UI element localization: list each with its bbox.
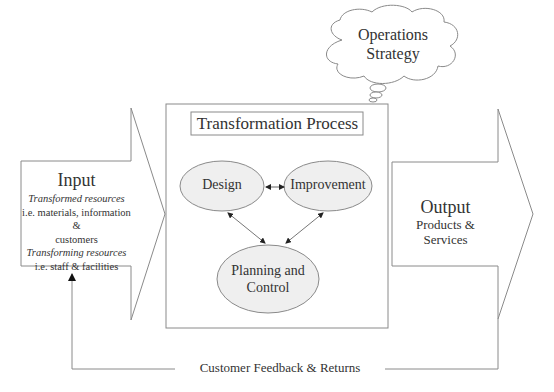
improvement-label: Improvement: [284, 177, 372, 193]
thought-bubble-small: [369, 98, 377, 102]
process-title: Transformation Process: [192, 114, 363, 134]
planning-label: Planning and Control: [217, 262, 319, 296]
output-subtitle: Products & Services: [393, 218, 498, 248]
design-label: Design: [180, 177, 264, 193]
input-title: Input: [22, 170, 131, 191]
planning-label-line2: Control: [217, 279, 319, 296]
strategy-label-line1: Operations: [338, 25, 448, 44]
strategy-label-line2: Strategy: [338, 44, 448, 63]
strategy-label: Operations Strategy: [338, 25, 448, 63]
input-line-customers: customers: [22, 233, 131, 247]
output-title: Output: [393, 197, 498, 218]
feedback-label: Customer Feedback & Returns: [175, 361, 385, 376]
input-line-materials: i.e. materials, information &: [22, 206, 131, 233]
input-line-transformed-heading: Transformed resources: [22, 192, 131, 206]
thought-bubble-medium: [370, 92, 382, 98]
input-line-transforming-heading: Transforming resources: [22, 246, 131, 260]
input-description: Transformed resources i.e. materials, in…: [22, 192, 131, 273]
thought-bubble-large: [370, 84, 386, 92]
planning-label-line1: Planning and: [217, 262, 319, 279]
input-line-staff: i.e. staff & facilities: [22, 260, 131, 274]
